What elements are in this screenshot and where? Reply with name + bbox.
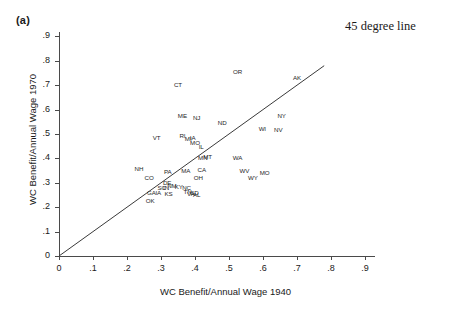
y-tick-label: 0: [28, 250, 50, 260]
data-point-label: MA: [181, 167, 190, 173]
x-tick-mark: [229, 256, 230, 260]
x-tick-label: .3: [148, 263, 174, 273]
data-point-label: OK: [146, 198, 155, 204]
x-tick-label: .5: [216, 263, 242, 273]
y-tick-mark: [55, 36, 60, 37]
y-tick-mark: [55, 110, 60, 111]
y-axis-spine: [59, 32, 60, 260]
data-point-label: CO: [145, 175, 154, 181]
x-tick-mark: [195, 256, 196, 260]
x-axis-spine: [55, 256, 375, 257]
data-point-label: AL: [193, 191, 200, 197]
x-tick-label: 0: [46, 263, 72, 273]
data-point-label: WA: [233, 155, 243, 161]
scatter-plot-figure: (a) 45 degree line 0.1.2.3.4.5.6.7.8.9 0…: [0, 0, 451, 310]
y-tick-mark: [55, 207, 60, 208]
data-point-label: WY: [248, 175, 258, 181]
y-tick-mark: [55, 158, 60, 159]
x-tick-label: .1: [80, 263, 106, 273]
x-tick-mark: [161, 256, 162, 260]
x-tick-mark: [93, 256, 94, 260]
x-tick-label: .7: [284, 263, 310, 273]
x-axis-title: WC Benefit/Annual Wage 1940: [0, 286, 451, 297]
x-tick-label: .2: [114, 263, 140, 273]
data-point-label: NJ: [193, 115, 200, 121]
data-point-label: OR: [233, 69, 242, 75]
data-point-label: ME: [178, 113, 187, 119]
data-point-label: WI: [259, 126, 266, 132]
data-point-label: MT: [203, 154, 212, 160]
y-tick-mark: [55, 61, 60, 62]
data-point-label: ND: [218, 120, 227, 126]
x-tick-mark: [331, 256, 332, 260]
data-point-label: CA: [198, 167, 206, 173]
data-point-label: KS: [164, 191, 172, 197]
y-tick-mark: [55, 232, 60, 233]
y-tick-mark: [55, 183, 60, 184]
y-tick-mark: [55, 85, 60, 86]
data-point-label: CT: [174, 82, 182, 88]
data-point-label: MO: [260, 170, 270, 176]
y-tick-mark: [55, 134, 60, 135]
data-point-label: IA: [155, 190, 161, 196]
reference-line-annotation: 45 degree line: [345, 19, 416, 34]
x-tick-mark: [127, 256, 128, 260]
data-point-label: NH: [135, 166, 144, 172]
data-point-label: VT: [153, 135, 161, 141]
x-tick-label: .9: [352, 263, 378, 273]
data-point-label: AK: [293, 75, 301, 81]
data-point-label: OH: [194, 175, 203, 181]
data-point-label: NY: [277, 113, 285, 119]
data-point-label: NV: [274, 126, 282, 132]
x-tick-mark: [263, 256, 264, 260]
x-tick-mark: [297, 256, 298, 260]
x-tick-label: .8: [318, 263, 344, 273]
y-tick-mark: [55, 256, 60, 257]
data-point-label: PA: [164, 169, 172, 175]
y-axis-title: WC Benefit/Annual Wage 1970: [27, 30, 38, 250]
x-tick-mark: [365, 256, 366, 260]
x-tick-label: .6: [250, 263, 276, 273]
data-point-label: IL: [199, 144, 204, 150]
panel-label: (a): [16, 14, 30, 26]
x-tick-label: .4: [182, 263, 208, 273]
